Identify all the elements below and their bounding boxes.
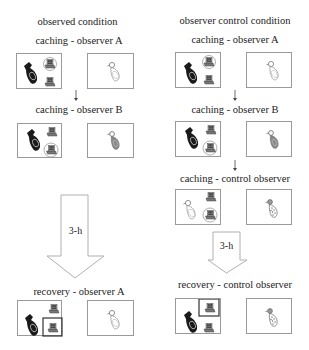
observer-bird-icon <box>88 54 135 90</box>
delay-label: 3-h <box>62 225 89 236</box>
right-step-4-observer-panel <box>246 298 292 334</box>
right-step-2-label: caching - observer B <box>170 104 300 115</box>
right-column-title: observer control condition <box>160 15 309 26</box>
left-step-2-cacher-panel <box>17 123 62 158</box>
control-cacher-scene-icon <box>176 190 222 226</box>
right-step-3-cacher-panel <box>175 189 221 225</box>
left-step-3-cacher-panel <box>17 300 62 336</box>
down-arrow-icon <box>73 90 79 102</box>
right-step-1-label: caching - observer A <box>170 34 300 45</box>
cacher-scene-icon <box>18 124 63 159</box>
right-step-1-observer-panel <box>246 52 292 88</box>
right-step-4-label: recovery - control observer <box>165 279 305 290</box>
left-step-2-label: caching - observer B <box>14 104 144 115</box>
left-step-1-observer-panel <box>87 53 134 89</box>
left-step-3-label: recovery - observer A <box>14 286 144 297</box>
cacher-scene-icon <box>17 54 63 90</box>
delay-arrow-icon <box>40 194 112 280</box>
left-step-2-observer-panel <box>87 123 134 158</box>
left-step-1-label: caching - observer A <box>14 35 144 46</box>
left-column-title: observed condition <box>0 16 155 27</box>
cacher-scene-icon <box>176 53 222 89</box>
left-step-1-cacher-panel <box>16 53 62 89</box>
recovery-scene-icon <box>18 301 63 337</box>
right-step-2-observer-panel <box>246 121 292 157</box>
right-step-3-observer-panel <box>246 189 292 225</box>
control-observer-bird-icon <box>247 299 293 335</box>
right-step-3-label: caching - control observer <box>170 173 300 184</box>
right-step-1-cacher-panel <box>175 52 221 88</box>
down-arrow-icon <box>232 160 238 172</box>
right-step-4-cacher-panel <box>175 298 221 334</box>
cacher-scene-icon <box>176 122 222 158</box>
recovery-scene-icon <box>176 299 222 335</box>
right-step-2-cacher-panel <box>175 121 221 157</box>
down-arrow-icon <box>232 90 238 102</box>
left-step-3-observer-panel <box>87 300 134 336</box>
observer-bird-icon <box>88 124 135 159</box>
control-observer-bird-icon <box>247 190 293 226</box>
delay-arrow-icon <box>206 231 250 275</box>
observer-bird-icon <box>88 301 135 337</box>
observer-bird-icon <box>247 53 293 89</box>
observer-bird-icon <box>247 122 293 158</box>
delay-label: 3-h <box>213 240 240 251</box>
